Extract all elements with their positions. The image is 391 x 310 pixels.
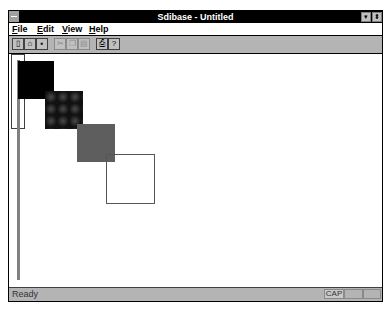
menu-help-label: elp [96,24,109,34]
toolbar: ▯ ⌂ ▪ ✂ ❐ ▤ ⎙ ? [9,36,382,54]
open-button[interactable]: ⌂ [24,38,36,50]
cut-icon: ✂ [57,39,64,48]
new-icon: ▯ [16,39,20,48]
maximize-button[interactable]: ⬍ [372,12,382,22]
maximize-icon: ⬍ [374,13,380,20]
drawing-canvas[interactable] [9,54,382,288]
print-button[interactable]: ⎙ [96,38,108,50]
paste-icon: ▤ [80,39,88,48]
minimize-icon: ▾ [364,13,368,20]
open-icon: ⌂ [28,39,33,48]
menu-file-label: ile [18,24,28,34]
menu-bar: File Edit View Help [9,23,382,36]
status-text: Ready [12,289,38,300]
scroll-indicator [363,289,381,299]
cut-button[interactable]: ✂ [54,38,66,50]
menu-file[interactable]: File [12,24,28,34]
menu-view-label: iew [68,24,83,34]
copy-button[interactable]: ❐ [66,38,78,50]
help-icon: ? [112,39,116,48]
copy-icon: ❐ [69,39,76,48]
title-bar[interactable]: Sdibase - Untitled ▾ ⬍ [9,11,382,23]
menu-help[interactable]: Help [89,24,109,34]
outline-square-shape[interactable] [106,154,155,204]
window-title: Sdibase - Untitled [9,11,382,23]
num-indicator [344,289,363,299]
save-icon: ▪ [41,39,44,48]
help-button[interactable]: ? [108,38,120,50]
menu-edit-label: dit [43,24,54,34]
save-button[interactable]: ▪ [36,38,48,50]
caps-indicator: CAP [324,289,344,299]
caps-indicator-label: CAP [326,289,342,298]
menu-view[interactable]: View [62,24,82,34]
new-button[interactable]: ▯ [12,38,24,50]
print-icon: ⎙ [99,39,105,48]
app-window: Sdibase - Untitled ▾ ⬍ File Edit View He… [8,10,383,302]
paste-button[interactable]: ▤ [78,38,90,50]
menu-edit[interactable]: Edit [37,24,54,34]
minimize-button[interactable]: ▾ [361,12,371,22]
status-bar: Ready CAP [9,287,382,301]
